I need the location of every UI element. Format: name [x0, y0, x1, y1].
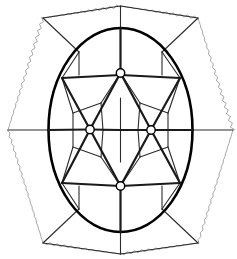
edge-horiz-right-band — [121, 75, 181, 78]
outer-chord-bottom-right — [121, 243, 199, 254]
edge-midleft-to-bottom — [90, 130, 121, 187]
node-top-center — [116, 69, 124, 77]
edge-midleft-to-lowerleft-rim — [62, 130, 90, 184]
spoke-bottom-right — [162, 209, 198, 243]
edge-midright-to-upperright-rim — [151, 78, 180, 130]
edge-left-rim-horizontal — [48, 130, 90, 131]
outer-chord-top-right — [121, 6, 199, 18]
outer-chord-bottom-left — [43, 243, 121, 254]
edge-top-to-midleft — [90, 73, 121, 130]
figure-container — [0, 0, 237, 259]
node-bottom-center — [116, 182, 124, 190]
node-mid-right — [147, 126, 155, 134]
outer-chord-top-left — [43, 6, 121, 18]
edge-horiz-left-band-low — [62, 183, 121, 186]
edge-midright-to-lowerright-rim — [151, 130, 180, 183]
spoke-bottom-left — [43, 209, 79, 243]
spoke-top-left — [43, 18, 79, 52]
edge-midright-to-bottom — [121, 130, 152, 186]
geometric-figure-svg — [0, 0, 237, 259]
edge-horiz-left-band — [62, 75, 121, 78]
spoke-top-right — [162, 18, 198, 52]
edge-horiz-right-band-low — [121, 183, 181, 186]
edge-top-to-midright — [121, 73, 152, 130]
node-mid-left — [86, 125, 94, 133]
edge-midleft-to-upperleft-rim — [62, 78, 90, 130]
rim-lower-right-arc-chord — [162, 183, 180, 209]
